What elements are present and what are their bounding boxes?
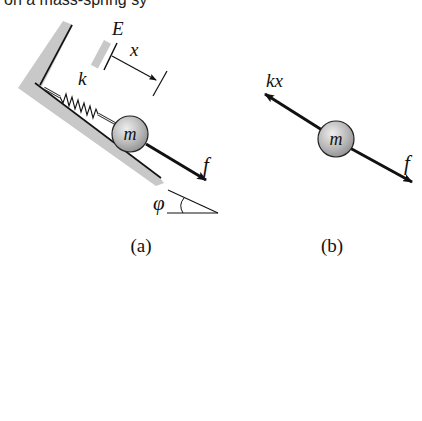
reference-label: E [111, 18, 124, 39]
free-body-force-label: f [404, 151, 413, 175]
panel-a: k E x m f φ (a) [18, 18, 218, 257]
panel-b: kx f m (b) [265, 70, 413, 257]
free-body-mass-label: m [330, 129, 343, 149]
angle-hypotenuse [168, 190, 218, 213]
spring-force-label: kx [266, 70, 283, 91]
spring-force-arrow [265, 94, 322, 130]
angle-label: φ [153, 191, 165, 215]
caption-b: (b) [321, 235, 343, 257]
reference-block [91, 40, 111, 68]
free-body-force-arrow [350, 148, 412, 182]
force-label: f [203, 153, 212, 177]
displacement-tick [153, 71, 167, 96]
mass-label: m [124, 124, 137, 144]
caption-a: (a) [130, 235, 151, 257]
top-text-fragment: on a mass-spring sy [4, 0, 147, 8]
wall-hatch [18, 21, 73, 88]
displacement-label: x [129, 39, 139, 60]
angle-arc [181, 198, 184, 213]
mass-spring-diagram: on a mass-spring sy k E x m [0, 0, 422, 421]
spring-constant-label: k [78, 68, 87, 89]
